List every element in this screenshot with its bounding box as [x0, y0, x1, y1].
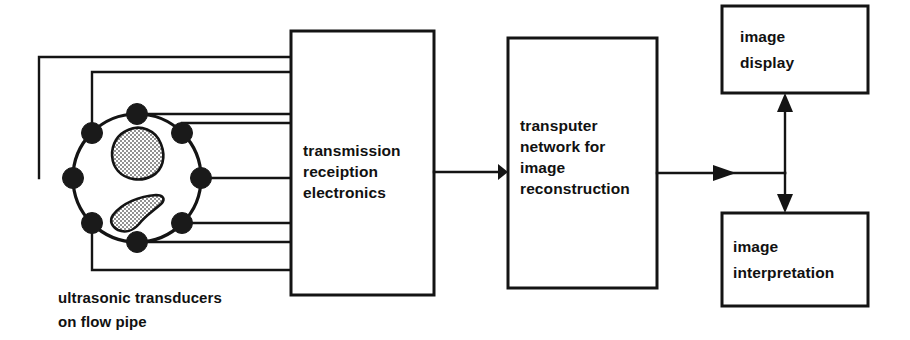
transducer-6	[82, 213, 103, 234]
transducer-8	[82, 123, 103, 144]
transducer-1	[127, 104, 148, 125]
block-image-interpretation[interactable]: image interpretation	[722, 213, 868, 306]
block-label-line-1: image	[740, 28, 786, 45]
block-label-line-3: electronics	[303, 184, 386, 201]
block-label-line-3: image	[520, 159, 566, 176]
caption-line-1: ultrasonic transducers	[58, 289, 222, 306]
block-label-line-2: interpretation	[733, 264, 834, 281]
flow-pipe-group	[63, 104, 212, 253]
arrowhead-right-branch	[713, 165, 736, 181]
arrowhead-up-display	[777, 93, 793, 112]
block-label-line-2: display	[740, 54, 794, 71]
display-interpretation-branch	[657, 93, 793, 213]
block-outline	[722, 6, 868, 93]
block-transmission-reception-electronics[interactable]: transmission receiption electronics	[291, 31, 434, 295]
transducer-4	[172, 213, 193, 234]
transducer-2	[172, 123, 193, 144]
block-image-display[interactable]: image display	[722, 6, 868, 93]
block-label-line-1: image	[733, 238, 779, 255]
block-label-line-1: transputer	[520, 117, 598, 134]
transducer-3	[191, 168, 212, 189]
block-diagram-canvas: transmission receiption electronics tran…	[0, 0, 910, 340]
transducer-5	[127, 232, 148, 253]
block-label-line-2: receiption	[303, 163, 378, 180]
block-outline	[722, 213, 868, 306]
arrowhead-down-interpretation	[777, 194, 793, 213]
block-label-line-1: transmission	[303, 142, 401, 159]
block-label-line-4: reconstruction	[520, 180, 630, 197]
arrow-electronics-to-transputer	[434, 164, 508, 180]
flow-inclusion-upper	[112, 128, 163, 180]
caption-line-2: on flow pipe	[58, 313, 147, 330]
block-label-line-2: network for	[520, 138, 606, 155]
transducer-7	[63, 168, 84, 189]
block-transputer-network[interactable]: transputer network for image reconstruct…	[508, 38, 657, 288]
sensor-caption: ultrasonic transducers on flow pipe	[58, 289, 222, 330]
diagram-svg: transmission receiption electronics tran…	[0, 0, 910, 340]
